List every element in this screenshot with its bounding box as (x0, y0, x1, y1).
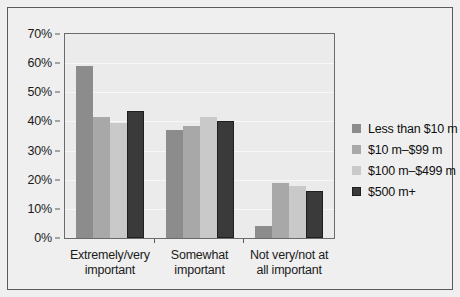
bars-layer (65, 34, 334, 238)
chart-figure: 70%60%50%40%30%20%10%0% Extremely/veryim… (0, 0, 460, 297)
legend-swatch-icon (352, 145, 361, 154)
y-axis: 70%60%50%40%30%20%10%0% (8, 33, 60, 239)
legend-label: $10 m–$99 m (368, 143, 442, 157)
y-axis-tick-label: 40% (28, 114, 52, 128)
legend-label: $500 m+ (368, 185, 416, 199)
legend-swatch-icon (352, 187, 361, 196)
y-axis-tick-label: 30% (28, 144, 52, 158)
bar (217, 121, 234, 238)
y-axis-tick-mark (55, 238, 60, 239)
bar (183, 126, 200, 238)
bar (255, 226, 272, 238)
y-axis-tick-mark (55, 63, 60, 64)
legend-item: $500 m+ (352, 181, 460, 202)
legend-label: $100 m–$499 m (368, 164, 456, 178)
y-axis-tick-label: 20% (28, 173, 52, 187)
legend-item: $100 m–$499 m (352, 160, 460, 181)
bar (93, 117, 110, 238)
legend-swatch-icon (352, 166, 361, 175)
y-axis-tick-mark (55, 121, 60, 122)
bar (166, 130, 183, 238)
legend-swatch-icon (352, 124, 361, 133)
y-axis-tick-label: 70% (28, 27, 52, 41)
bar (272, 183, 289, 238)
x-axis: Extremely/veryimportantSomewhatimportant… (64, 242, 335, 286)
bar (200, 117, 217, 238)
x-axis-label-line: all important (219, 263, 359, 278)
x-axis-tick-mark (243, 239, 244, 243)
y-axis-tick-label: 0% (34, 231, 52, 245)
bar (127, 111, 144, 238)
y-axis-tick-label: 60% (28, 56, 52, 70)
x-axis-group-label: Not very/not atall important (219, 248, 359, 278)
y-axis-tick-mark (55, 34, 60, 35)
x-axis-label-line: Not very/not at (219, 248, 359, 263)
bar (306, 191, 323, 238)
x-axis-tick-mark (154, 239, 155, 243)
y-axis-tick-mark (55, 179, 60, 180)
bar (76, 66, 93, 238)
figure-border: 70%60%50%40%30%20%10%0% Extremely/veryim… (7, 7, 453, 290)
chart-legend: Less than $10 m$10 m–$99 m$100 m–$499 m$… (352, 118, 460, 202)
legend-item: $10 m–$99 m (352, 139, 460, 160)
plot-area (64, 33, 335, 239)
y-axis-tick-mark (55, 208, 60, 209)
legend-label: Less than $10 m (368, 122, 457, 136)
y-axis-tick-label: 10% (28, 202, 52, 216)
y-axis-tick-mark (55, 92, 60, 93)
bar (110, 123, 127, 238)
y-axis-tick-label: 50% (28, 85, 52, 99)
bar (289, 186, 306, 238)
legend-item: Less than $10 m (352, 118, 460, 139)
y-axis-tick-mark (55, 150, 60, 151)
